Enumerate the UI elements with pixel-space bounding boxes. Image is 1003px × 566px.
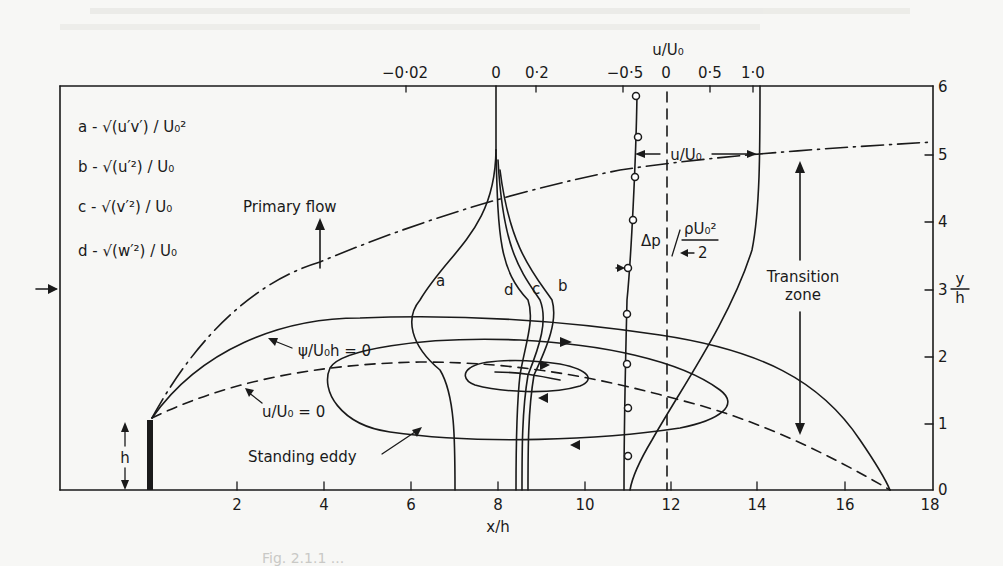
dp-rho-u0-squared: ρU₀² [684,220,717,238]
y-tick-1: 1 [938,415,948,433]
x-axis-label: x/h [486,518,509,536]
u-zero-pointer [245,388,262,403]
dp-denominator: 2 [698,244,708,262]
y-tick-2: 2 [938,348,948,366]
turbulence-profiles: a d c b [412,86,568,490]
curve-b-label: b [558,277,568,295]
legend-d: d - √(w′²) / U₀ [78,242,177,260]
x-tick-8: 8 [493,496,503,514]
y-tick-0: 0 [938,481,948,499]
eddy-arrow-icon [570,440,580,450]
primary-flow-arrow-icon [315,218,325,268]
standing-eddy-label: Standing eddy [248,448,357,466]
profile-c [498,160,543,490]
h-label: h [120,449,130,467]
top-tick-u-0: 0 [661,64,671,82]
x-tick-4: 4 [319,496,329,514]
fence [147,420,153,490]
x-tick-14: 14 [747,496,766,514]
x-tick-10: 10 [575,496,594,514]
u-profile-label: u/U₀ [670,146,702,164]
top-tick-rs-02: 0·2 [525,64,549,82]
pressure-profile [616,93,642,491]
figure-caption: Fig. 2.1.1 ... [262,550,344,566]
y-tick-4: 4 [938,213,948,231]
inflow-arrow-icon [36,284,58,294]
dp-numerator: Δp [641,232,661,250]
y-axis-label-num: y [956,270,965,288]
eddy-arrow-icon [538,393,548,403]
top-tick-rs-0: 0 [491,64,501,82]
primary-flow-label: Primary flow [243,198,337,216]
top-axis: −0·02 0 0·2 −0·5 0 0·5 1·0 u/U₀ [382,41,765,92]
bleed-through-text [60,8,910,30]
pressure-label: Δp ρU₀² 2 [641,220,718,262]
flow-diagram: 2 4 6 8 10 12 14 16 18 x/h 0 1 2 3 4 5 6… [0,0,1003,566]
top-tick-rs-neg002: −0·02 [382,64,428,82]
top-tick-u-10: 1·0 [741,64,765,82]
y-axis-label-den: h [955,289,965,307]
y-tick-3: 3 [938,281,948,299]
psi-zero-label: ψ/U₀h = 0 [298,342,371,360]
x-tick-18: 18 [920,496,939,514]
curve-d-label: d [504,281,514,299]
legend-c: c - √(v′²) / U₀ [78,198,172,216]
y-tick-6: 6 [938,78,948,96]
legend-b: b - √(u′²) / U₀ [78,158,174,176]
legend: a - √(u′v′) / U₀² b - √(u′²) / U₀ c - √(… [78,118,186,260]
u-zero-label: u/U₀ = 0 [262,403,325,421]
transition-label-1: Transition [766,268,840,286]
profile-b [500,170,554,490]
x-tick-2: 2 [232,496,242,514]
curve-a-label: a [436,272,445,290]
zero-velocity-line [152,362,890,490]
x-tick-16: 16 [835,496,854,514]
y-tick-5: 5 [938,146,948,164]
y-axis: 0 1 2 3 4 5 6 y h [925,78,969,499]
legend-a: a - √(u′v′) / U₀² [78,118,186,136]
top-axis-label: u/U₀ [652,41,684,59]
top-tick-u-05: 0·5 [698,64,722,82]
x-tick-6: 6 [406,496,416,514]
psi-zero-pointer [268,338,292,348]
top-tick-u-neg05: −0·5 [607,64,643,82]
curve-c-label: c [532,280,540,298]
fence-height-marker: h [120,422,130,490]
transition-label-2: zone [785,286,821,304]
eddy-arrow-icon [560,337,572,347]
x-tick-12: 12 [661,496,680,514]
